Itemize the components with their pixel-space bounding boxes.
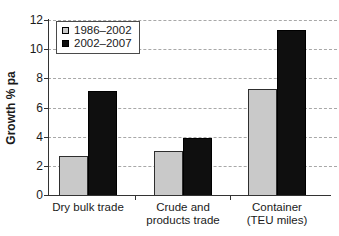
legend-entry-1986-2002: 1986–2002	[62, 24, 132, 37]
y-tick-label-12: 12	[0, 13, 43, 27]
y-tick-label-4: 4	[0, 130, 43, 144]
growth-bar-chart-figure: Growth % pa 024681012Dry bulk tradeCrude…	[0, 0, 339, 236]
legend: 1986–2002 2002–2007	[56, 21, 140, 54]
bar-gray-cat2	[248, 89, 277, 195]
x-category-label-0: Dry bulk trade	[33, 201, 143, 214]
legend-entry-2002-2007: 2002–2007	[62, 37, 132, 50]
x-axis-line	[48, 195, 331, 196]
bar-gray-cat0	[59, 156, 88, 195]
legend-label-2002-2007: 2002–2007	[74, 37, 132, 50]
y-tick-label-8: 8	[0, 71, 43, 85]
x-category-label-2: Container (TEU miles)	[222, 201, 332, 227]
legend-swatch-2002-2007	[62, 40, 69, 47]
x-tick-0	[135, 196, 136, 200]
bar-black-cat1	[183, 138, 212, 195]
legend-label-1986-2002: 1986–2002	[74, 24, 132, 37]
y-tick-label-2: 2	[0, 159, 43, 173]
bar-black-cat2	[277, 30, 306, 195]
x-tick-1	[230, 196, 231, 200]
legend-swatch-1986-2002	[62, 27, 69, 34]
bar-gray-cat1	[154, 151, 183, 195]
bar-black-cat0	[88, 91, 117, 195]
y-tick-label-6: 6	[0, 101, 43, 115]
y-axis-line	[48, 19, 49, 196]
y-tick-label-0: 0	[0, 188, 43, 202]
y-tick-label-10: 10	[0, 42, 43, 56]
